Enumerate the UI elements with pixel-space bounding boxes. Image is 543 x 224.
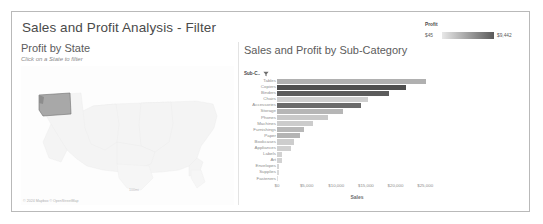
bar-mark[interactable] [277,121,313,126]
bar-row-track [277,139,437,144]
bar-row-track [277,158,437,163]
bar-row-track [277,91,437,96]
state-washington[interactable] [39,93,71,116]
x-axis-tick: $0 [275,183,280,188]
map-title: Profit by State [21,42,90,54]
bar-row-track [277,152,437,157]
bar-mark[interactable] [277,176,278,181]
x-axis-tick: $10,000 [328,183,344,188]
us-map-svg[interactable] [21,66,234,205]
us-state-map[interactable]: 100mi © 2024 Mapbox © OpenStreetMap [21,66,234,205]
x-axis-tick: $25,000 [417,183,433,188]
bar-mark[interactable] [277,133,300,138]
bar-mark[interactable] [277,97,368,102]
bar-mark[interactable] [277,103,361,108]
bar-row-track [277,170,437,175]
map-attribution: © 2024 Mapbox © OpenStreetMap [23,199,78,203]
bar-row-track [277,97,437,102]
bar-row-track [277,164,437,169]
bar-row-track [277,115,437,120]
bar-row-track [277,146,437,151]
filter-icon[interactable] [263,71,269,77]
bar-row[interactable]: Fasteners [244,176,454,182]
bar-mark[interactable] [277,158,282,163]
bar-mark[interactable] [277,164,279,169]
map-subtitle: Click on a State to filter [21,56,83,62]
x-axis-tick: $15,000 [358,183,374,188]
map-scale-label: 100mi [129,188,139,192]
bar-mark[interactable] [277,109,343,114]
bar-mark[interactable] [277,91,389,96]
bar-rows: TablesCopiersBindersChairsAccessoriesSto… [244,78,454,183]
bar-mark[interactable] [277,115,328,120]
bar-row-track [277,133,437,138]
x-axis-title: Sales [277,194,437,200]
bar-mark[interactable] [277,85,406,90]
legend-max-value: $9,442 [497,33,512,38]
bar-mark[interactable] [277,146,291,151]
subcategory-column-header[interactable]: Sub-C.. [244,71,260,76]
bar-row-label: Fasteners [216,176,276,182]
x-axis-tick: $5,000 [300,183,313,188]
legend-color-ramp [442,32,494,39]
bar-row-track [277,121,437,126]
bar-row-track [277,176,437,181]
bar-row-track [277,109,437,114]
bar-mark[interactable] [277,139,294,144]
bar-mark[interactable] [277,152,282,157]
dashboard-container: Sales and Profit Analysis - Filter Profi… [11,11,530,212]
x-axis: $0$5,000$10,000$15,000$20,000$25,000 [277,183,437,193]
legend-min-value: $45 [425,33,433,38]
dashboard-title: Sales and Profit Analysis - Filter [22,20,216,35]
legend-title: Profit [425,22,438,27]
bar-row-track [277,127,437,132]
x-axis-tick: $20,000 [388,183,404,188]
profit-legend[interactable]: Profit $45 $9,442 [425,22,523,48]
bar-mark[interactable] [277,127,304,132]
profit-by-state-pane: Profit by State Click on a State to filt… [21,42,234,205]
bar-mark[interactable] [277,79,426,84]
sales-profit-subcategory-pane: Sales and Profit by Sub-Category Sub-C..… [244,42,454,205]
bar-row-track [277,85,437,90]
bar-mark[interactable] [277,170,279,175]
bar-row-track [277,79,437,84]
bar-row-track [277,103,437,108]
bar-chart-title: Sales and Profit by Sub-Category [244,44,407,56]
